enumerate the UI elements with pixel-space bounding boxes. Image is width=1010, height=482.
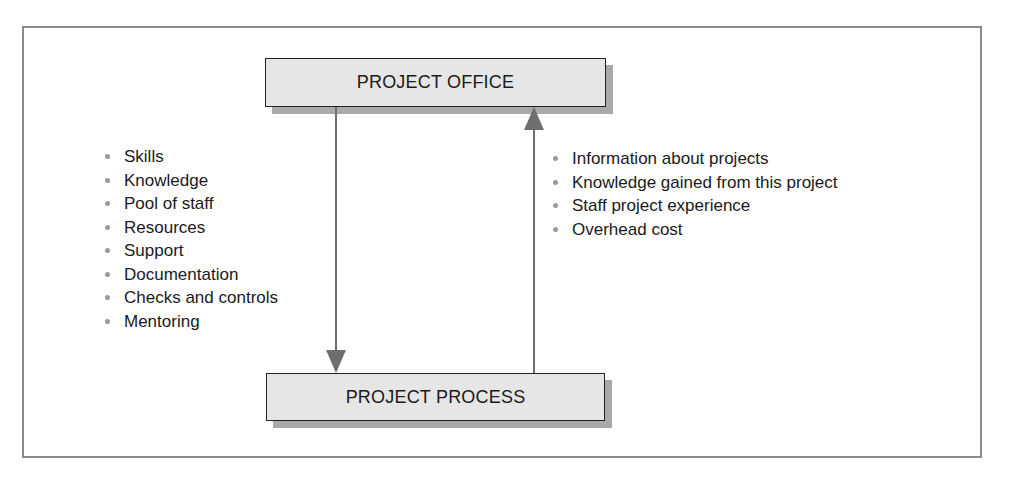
- list-item: Information about projects: [550, 147, 838, 171]
- office-to-process-list: Skills Knowledge Pool of staff Resources…: [102, 145, 278, 333]
- list-item: Checks and controls: [102, 286, 278, 310]
- list-item: Pool of staff: [102, 192, 278, 216]
- list-item: Resources: [102, 216, 278, 240]
- up-arrow-icon: [524, 107, 544, 373]
- list-item: Knowledge gained from this project: [550, 171, 838, 195]
- list-item: Support: [102, 239, 278, 263]
- list-item: Skills: [102, 145, 278, 169]
- down-arrow-icon: [326, 107, 346, 373]
- process-to-office-list: Information about projects Knowledge gai…: [550, 147, 838, 241]
- list-item: Knowledge: [102, 169, 278, 193]
- list-item: Staff project experience: [550, 194, 838, 218]
- list-item: Documentation: [102, 263, 278, 287]
- list-item: Mentoring: [102, 310, 278, 334]
- list-item: Overhead cost: [550, 218, 838, 242]
